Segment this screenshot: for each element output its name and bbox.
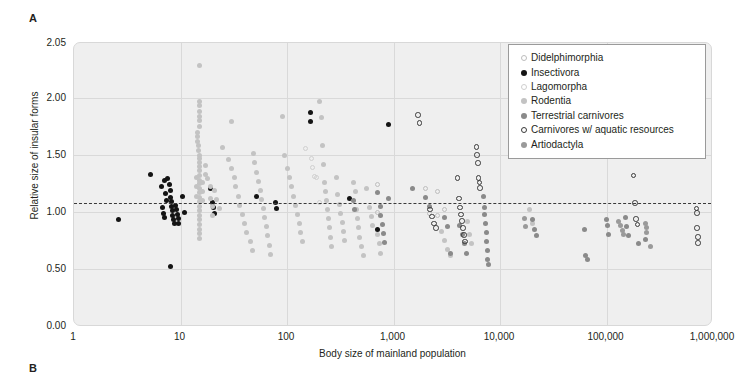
data-point <box>477 185 483 191</box>
data-point <box>285 166 290 171</box>
data-point <box>160 205 165 210</box>
open-circle-icon <box>517 127 531 133</box>
data-point <box>176 221 181 226</box>
data-point <box>375 182 380 187</box>
data-point <box>217 206 222 211</box>
data-point <box>359 244 364 249</box>
y-axis-tick-labels: 0.000.501.001.502.002.05 <box>20 42 66 326</box>
data-point <box>477 180 483 186</box>
data-point <box>367 205 372 210</box>
data-point <box>200 180 205 185</box>
data-point <box>694 225 700 231</box>
data-point <box>242 221 247 226</box>
data-point <box>380 222 385 227</box>
data-point <box>378 251 383 256</box>
data-point <box>469 241 474 246</box>
data-point <box>695 240 701 246</box>
data-point <box>460 225 466 231</box>
data-point <box>342 238 347 243</box>
legend-item-label: Didelphimorphia <box>531 53 603 63</box>
data-point <box>351 180 356 185</box>
gridline-vertical <box>287 43 288 325</box>
data-point <box>369 214 374 219</box>
data-point <box>250 248 255 253</box>
x-tick-label: 1 <box>70 331 76 342</box>
data-point <box>458 212 464 218</box>
legend-item-didelphimorphia[interactable]: Didelphimorphia <box>517 51 697 65</box>
data-point <box>606 232 611 237</box>
data-point <box>308 110 313 115</box>
legend-item-rodentia[interactable]: Rodentia <box>517 94 697 108</box>
legend-item-artiodactyla[interactable]: Artiodactyla <box>517 137 697 151</box>
legend-item-label: Insectivora <box>531 68 579 78</box>
gridline-horizontal <box>74 269 711 270</box>
gridline-vertical <box>500 43 501 325</box>
data-point <box>474 144 480 150</box>
data-point <box>168 264 173 269</box>
data-point <box>212 188 217 193</box>
data-point <box>210 204 215 209</box>
data-point <box>205 176 210 181</box>
data-point <box>194 175 199 180</box>
data-point <box>229 119 234 124</box>
data-point <box>159 184 164 189</box>
data-point <box>334 175 339 180</box>
data-point <box>445 224 450 229</box>
data-point <box>214 197 219 202</box>
data-point <box>462 239 468 245</box>
legend-item-insectivora[interactable]: Insectivora <box>517 65 697 79</box>
data-point <box>268 252 273 257</box>
data-point <box>694 210 700 216</box>
data-point <box>626 233 631 238</box>
data-point <box>439 229 444 234</box>
data-point <box>251 151 256 156</box>
data-point <box>320 143 325 148</box>
data-point <box>208 196 213 201</box>
data-point <box>485 248 490 253</box>
legend-item-lagomorpha[interactable]: Lagomorpha <box>517 80 697 94</box>
data-point <box>455 175 461 181</box>
x-tick-label: 10,000 <box>484 331 515 342</box>
data-point <box>459 218 465 224</box>
gridline-vertical <box>394 43 395 325</box>
data-point <box>262 215 267 220</box>
data-point <box>605 223 610 228</box>
data-point <box>386 122 391 127</box>
data-point <box>417 120 423 126</box>
data-point <box>300 239 305 244</box>
legend-item-label: Artiodactyla <box>531 140 583 150</box>
data-point <box>456 196 462 202</box>
x-tick-label: 10 <box>174 331 185 342</box>
data-point <box>353 189 358 194</box>
data-point <box>582 227 587 232</box>
data-point <box>298 230 303 235</box>
y-tick-label: 1.50 <box>24 149 66 160</box>
data-point <box>364 186 369 191</box>
data-point <box>361 253 366 258</box>
data-point <box>232 175 237 180</box>
data-point <box>523 224 528 229</box>
data-point <box>327 225 332 230</box>
data-point <box>314 175 319 180</box>
data-point <box>240 212 245 217</box>
y-tick-label: 0.00 <box>24 320 66 331</box>
legend-item-carnivores-w-aquatic-resources[interactable]: Carnivores w/ aquatic resources <box>517 123 697 137</box>
data-point <box>309 156 314 161</box>
data-point <box>415 112 421 118</box>
data-point <box>475 160 481 166</box>
data-point <box>291 194 296 199</box>
data-point <box>484 239 489 244</box>
gridline-horizontal <box>74 212 711 213</box>
data-point <box>280 114 285 119</box>
x-tick-label: 1,000,000 <box>690 331 735 342</box>
data-point <box>274 206 279 211</box>
x-tick-label: 100 <box>278 331 295 342</box>
data-point <box>382 240 387 245</box>
data-point <box>378 204 383 209</box>
data-point <box>167 182 172 187</box>
legend-item-terrestrial-carnivores[interactable]: Terrestrial carnivores <box>517 109 697 123</box>
filled-circle-icon <box>517 70 531 76</box>
gridline-vertical <box>181 43 182 325</box>
data-point <box>423 186 428 191</box>
x-axis-tick-labels: 1101001,00010,000100,0001,000,000 <box>73 331 712 345</box>
